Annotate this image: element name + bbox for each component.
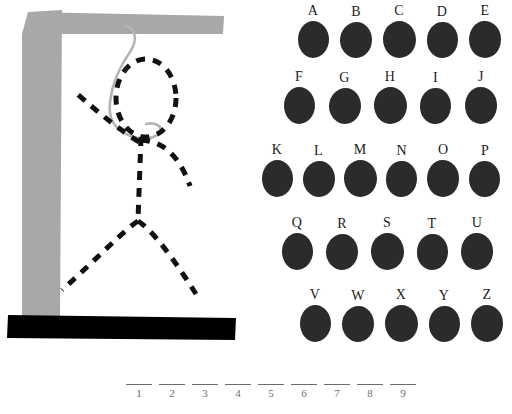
letter-blob-icon[interactable] [298,21,329,58]
letter-row: A B C D E [296,4,502,58]
letter-blob-icon[interactable] [344,160,377,197]
letter-blob-icon[interactable] [385,305,418,342]
blank-number: 1 [136,387,142,399]
letter-button-g[interactable]: G [328,71,362,124]
letter-button-u[interactable]: U [460,216,494,270]
letter-blob-icon[interactable] [282,233,313,270]
letter-board: A B C D E F G H [258,0,512,356]
letter-blob-icon[interactable] [420,88,451,124]
letter-label: N [397,144,408,158]
letter-button-y[interactable]: Y [427,289,461,342]
letter-row: V W X Y Z [298,288,504,342]
gallows-post [22,10,62,320]
blank-number: 8 [367,387,373,399]
letter-blob-icon[interactable] [465,87,497,124]
blank-line [357,384,383,385]
letter-button-k[interactable]: K [260,143,294,197]
blank-number: 6 [301,387,307,399]
letter-button-e[interactable]: E [468,4,502,58]
letter-button-d[interactable]: D [425,5,459,58]
letter-button-z[interactable]: Z [470,288,504,342]
letter-blob-icon[interactable] [383,21,416,58]
word-blank-slot[interactable]: 8 [357,384,383,399]
letter-blob-icon[interactable] [326,234,358,270]
letter-button-o[interactable]: O [426,143,460,197]
letter-blob-icon[interactable] [471,305,503,342]
letter-blob-icon[interactable] [340,22,372,58]
letter-label: M [354,143,367,157]
letter-blob-icon[interactable] [386,161,417,197]
gallows-beam [28,12,224,34]
letter-button-s[interactable]: S [370,216,404,270]
letter-button-v[interactable]: V [298,288,332,342]
letter-blob-icon[interactable] [284,87,315,124]
letter-blob-icon[interactable] [461,233,493,270]
word-blank-slot[interactable]: 1 [126,384,152,399]
letter-button-p[interactable]: P [468,144,502,197]
word-blank-slot[interactable]: 6 [291,384,317,399]
figure-torso [138,137,141,220]
letter-button-m[interactable]: M [343,143,377,197]
letter-row: Q R S T U [280,216,494,270]
letter-label: O [438,143,449,157]
letter-blob-icon[interactable] [303,161,335,197]
word-blank-slot[interactable]: 2 [159,384,185,399]
letter-blob-icon[interactable] [427,160,459,197]
blank-number: 2 [169,387,175,399]
letter-row: F G H I J [282,70,498,124]
letter-label: F [295,70,303,84]
letter-label: Q [292,216,303,230]
blank-number: 5 [268,387,274,399]
letter-button-t[interactable]: T [415,217,449,270]
letter-button-a[interactable]: A [296,4,330,58]
letter-button-r[interactable]: R [325,217,359,270]
letter-button-c[interactable]: C [382,4,416,58]
letter-label: A [308,4,319,18]
letter-blob-icon[interactable] [371,233,404,270]
letter-label: B [351,5,361,19]
letter-row: K L M N O P [260,143,502,197]
letter-button-l[interactable]: L [302,144,336,197]
letter-blob-icon[interactable] [300,305,331,342]
word-blank-slot[interactable]: 4 [225,384,251,399]
letter-button-q[interactable]: Q [280,216,314,270]
letter-label: S [383,216,391,230]
letter-blob-icon[interactable] [329,88,361,124]
letter-blob-icon[interactable] [262,160,293,197]
letter-label: Y [439,289,450,303]
figure-right-leg [138,221,196,294]
letter-button-i[interactable]: I [419,71,453,124]
letter-label: W [351,289,365,303]
letter-label: V [310,288,321,302]
letter-blob-icon[interactable] [417,234,448,270]
letter-label: U [472,216,483,230]
letter-button-f[interactable]: F [282,70,316,124]
word-blank-slot[interactable]: 5 [258,384,284,399]
letter-button-b[interactable]: B [339,5,373,58]
letter-blob-icon[interactable] [469,161,500,197]
letter-blob-icon[interactable] [342,306,374,342]
letter-button-w[interactable]: W [341,289,375,342]
word-blank-slot[interactable]: 9 [390,384,416,399]
blank-line [324,384,350,385]
letter-blob-icon[interactable] [469,21,501,58]
letter-button-h[interactable]: H [373,70,407,124]
letter-button-j[interactable]: J [464,70,498,124]
gallows-panel [0,0,262,352]
letter-label: L [314,144,323,158]
figure-right-arm [141,140,190,186]
blank-line [291,384,317,385]
letter-blob-icon[interactable] [374,87,407,124]
letter-blob-icon[interactable] [427,22,458,58]
blank-line [126,384,152,385]
letter-button-n[interactable]: N [385,144,419,197]
letter-blob-icon[interactable] [429,306,460,342]
word-blanks: 1 2 3 4 5 6 7 8 9 [126,384,416,399]
gallows-drawing [0,0,262,352]
word-blank-slot[interactable]: 7 [324,384,350,399]
word-blank-slot[interactable]: 3 [192,384,218,399]
letter-button-x[interactable]: X [384,288,418,342]
letter-label: K [272,143,283,157]
letter-label: C [394,4,404,18]
gallows-base [7,315,236,340]
